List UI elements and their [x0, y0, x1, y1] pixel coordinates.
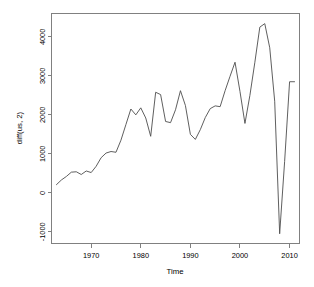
- x-tick-label: 1980: [133, 251, 149, 260]
- y-tick-label: 0: [38, 191, 47, 195]
- y-tick-label: 3000: [38, 68, 47, 84]
- chart-plot-root: -100001000200030004000 19701980199020002…: [0, 0, 314, 287]
- y-axis-title: diff(us, 2): [15, 111, 24, 144]
- x-tick-label: 2010: [281, 251, 297, 260]
- y-tick-label: 2000: [38, 107, 47, 123]
- line-chart-svg: -100001000200030004000 19701980199020002…: [0, 0, 314, 287]
- y-tick-label: 4000: [38, 29, 47, 45]
- x-tick-label: 1970: [83, 251, 99, 260]
- y-tick-label: 1000: [38, 146, 47, 162]
- x-axis-title: Time: [166, 267, 183, 276]
- x-tick-label: 1990: [182, 251, 198, 260]
- y-tick-label: -1000: [38, 222, 47, 241]
- x-tick-label: 2000: [232, 251, 248, 260]
